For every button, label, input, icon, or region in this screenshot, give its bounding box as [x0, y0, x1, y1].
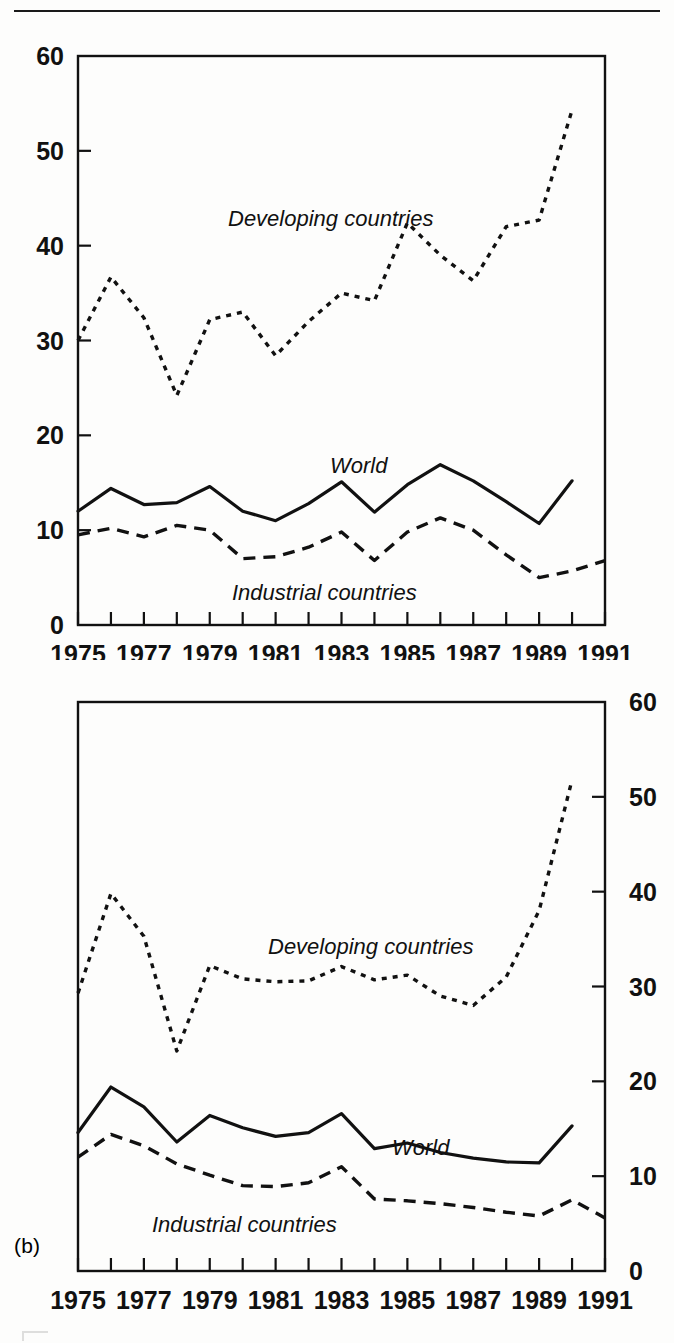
panel-a-series-world — [78, 465, 572, 524]
panel-b-y-tick-label: 20 — [629, 1067, 657, 1095]
panel-b-tag: (b) — [14, 1234, 40, 1258]
panel-b-x-tick-label: 1985 — [380, 1286, 436, 1314]
panel-b-series-developing-countries — [78, 780, 572, 1051]
panel-b-label-developing: Developing countries — [268, 934, 473, 959]
panel-b-series-group — [78, 780, 605, 1218]
panel-a-y-tick-labels: 0102030405060 — [36, 42, 64, 639]
panel-b-x-tick-label: 1983 — [314, 1286, 370, 1314]
panel-a-label-industrial: Industrial countries — [232, 580, 417, 605]
panel-b-x-ticks — [78, 1258, 605, 1271]
panel-a-y-tick-label: 50 — [36, 137, 64, 165]
page-top-rule — [14, 10, 660, 12]
panel-b-y-tick-label: 50 — [629, 783, 657, 811]
panel-b-x-tick-label: 1977 — [116, 1286, 172, 1314]
panel-b-y-tick-label: 10 — [629, 1162, 657, 1190]
panel-a-plot: 0102030405060 19751977197919811983198519… — [0, 30, 674, 660]
panel-b-y-ticks — [592, 797, 605, 1176]
panel-b-x-tick-labels: 197519771979198119831985198719891991 — [50, 1286, 633, 1314]
panel-a-x-tick-label: 1981 — [248, 640, 304, 660]
panel-a-series-industrial-countries — [78, 518, 605, 578]
panel-b-x-tick-label: 1989 — [511, 1286, 567, 1314]
panel-b-x-tick-label: 1979 — [182, 1286, 238, 1314]
panel-b-x-tick-label: 1991 — [577, 1286, 633, 1314]
panel-a-series-group — [78, 110, 605, 578]
panel-a-y-tick-label: 0 — [50, 611, 64, 639]
panel-b-plot: 0102030405060 19751977197919811983198519… — [0, 676, 674, 1316]
panel-a-x-tick-label: 1987 — [445, 640, 501, 660]
panel-b-series-industrial-countries — [78, 1134, 605, 1217]
panel-b-label-world: World — [392, 1135, 450, 1160]
panel-a-plot-frame — [78, 56, 605, 625]
panel-a-x-tick-label: 1979 — [182, 640, 238, 660]
cut-off-caption-sliver — [22, 1331, 48, 1341]
panel-a-series-developing-countries — [78, 110, 572, 395]
panel-a-x-tick-label: 1991 — [577, 640, 633, 660]
panel-b-label-industrial: Industrial countries — [152, 1212, 337, 1237]
panel-a-label-world: World — [330, 453, 388, 478]
panel-a-y-tick-label: 40 — [36, 232, 64, 260]
panel-b-x-tick-label: 1987 — [445, 1286, 501, 1314]
panel-b-y-tick-label: 60 — [629, 688, 657, 716]
panel-a-x-tick-label: 1975 — [50, 640, 106, 660]
panel-a-y-ticks — [78, 151, 91, 530]
panel-a-x-tick-label: 1983 — [314, 640, 370, 660]
panel-b-y-tick-label: 0 — [629, 1257, 643, 1285]
panel-b-x-tick-label: 1981 — [248, 1286, 304, 1314]
panel-b-y-tick-label: 30 — [629, 973, 657, 1001]
panel-b-x-tick-label: 1975 — [50, 1286, 106, 1314]
panel-a-label-developing: Developing countries — [228, 206, 433, 231]
panel-a-x-tick-labels: 197519771979198119831985198719891991 — [50, 640, 633, 660]
panel-b-y-tick-label: 40 — [629, 878, 657, 906]
panel-b-y-tick-labels: 0102030405060 — [629, 688, 657, 1285]
panel-a-y-tick-label: 10 — [36, 516, 64, 544]
panel-a-x-tick-label: 1989 — [511, 640, 567, 660]
panel-a-x-tick-label: 1977 — [116, 640, 172, 660]
chart-panel-a: 0102030405060 19751977197919811983198519… — [0, 30, 674, 660]
panel-a-x-tick-label: 1985 — [380, 640, 436, 660]
panel-a-y-tick-label: 30 — [36, 327, 64, 355]
panel-a-y-tick-label: 20 — [36, 421, 64, 449]
figure-page: 0102030405060 19751977197919811983198519… — [0, 0, 674, 1343]
panel-a-x-ticks — [78, 612, 605, 625]
chart-panel-b: 0102030405060 19751977197919811983198519… — [0, 676, 674, 1316]
panel-a-y-tick-label: 60 — [36, 42, 64, 70]
